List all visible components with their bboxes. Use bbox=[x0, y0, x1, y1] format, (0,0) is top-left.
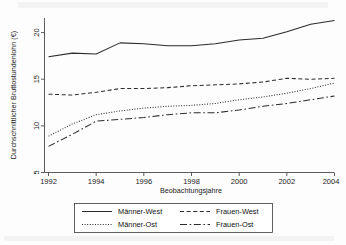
y-axis-title: Durchschnittlicher Bruttostundenlohn (€) bbox=[9, 31, 18, 159]
legend-label-frauen-west: Frauen-West bbox=[216, 207, 259, 216]
scan-artifact-top bbox=[18, 2, 328, 8]
x-tick-label-3: 1998 bbox=[183, 177, 200, 186]
x-tick-label-4: 2000 bbox=[231, 177, 248, 186]
legend: Männer-West Frauen-West Männer-Ost Fraue… bbox=[75, 204, 273, 233]
x-tick-label-5: 2002 bbox=[278, 177, 295, 186]
line-chart: 5 10 15 20 Durchschnittlicher Bruttostun… bbox=[0, 0, 346, 245]
y-tick-label-1: 10 bbox=[32, 122, 41, 130]
x-tick-label-0: 1992 bbox=[40, 177, 57, 186]
legend-label-maenner-ost: Männer-Ost bbox=[118, 220, 157, 229]
chart-figure: 5 10 15 20 Durchschnittlicher Bruttostun… bbox=[0, 0, 346, 245]
legend-label-maenner-west: Männer-West bbox=[118, 207, 162, 216]
x-tick-label-1: 1994 bbox=[88, 177, 105, 186]
x-tick-label-6: 2004 bbox=[323, 177, 340, 186]
y-tick-label-3: 20 bbox=[32, 28, 41, 36]
x-axis-title: Beobachtungsjahre bbox=[160, 186, 222, 195]
legend-label-frauen-ost: Frauen-Ost bbox=[216, 220, 253, 229]
x-tick-label-2: 1996 bbox=[135, 177, 152, 186]
scan-artifact-bottom bbox=[4, 236, 334, 241]
y-tick-label-2: 15 bbox=[32, 75, 41, 83]
y-tick-label-0: 5 bbox=[32, 170, 41, 174]
